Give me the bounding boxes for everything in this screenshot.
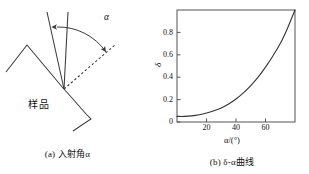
sample-label: 样品 [28,96,49,111]
panel-a-incidence-diagram: α 样品 (a) 入射角α [0,0,155,174]
panel-b-delta-alpha-chart: 0.8 0.6 0.4 0.2 0 20 40 60 δ α/(°) (b) δ… [155,0,309,174]
panel-b-caption: (b) δ-α曲线 [155,155,309,168]
y-tick-label-0.4: 0.4 [151,72,173,81]
double-arrow-arc-icon [57,27,106,52]
figure-root: α 样品 (a) 入射角α [0,0,309,174]
panel-a-caption: (a) 入射角α [0,147,145,160]
x-tick-label-60: 60 [257,123,275,132]
dashed-reference-ray-icon [64,45,115,89]
x-tick-label-40: 40 [227,123,245,132]
x-tick-label-20: 20 [198,123,216,132]
y-tick-label-0.2: 0.2 [151,95,173,104]
angle-alpha-label: α [104,12,109,22]
incident-ray-icon [47,12,64,89]
chart-drawing [155,0,309,174]
y-tick-label-0.8: 0.8 [151,28,173,37]
normal-ray-icon [64,12,68,89]
x-axis-label: α/(°) [155,135,309,145]
sawtooth-surface-icon [6,45,91,131]
y-tick-label-0: 0 [151,117,173,126]
y-axis-label: δ [153,63,163,67]
plot-frame [177,10,295,122]
y-tick-label-0.6: 0.6 [151,50,173,59]
